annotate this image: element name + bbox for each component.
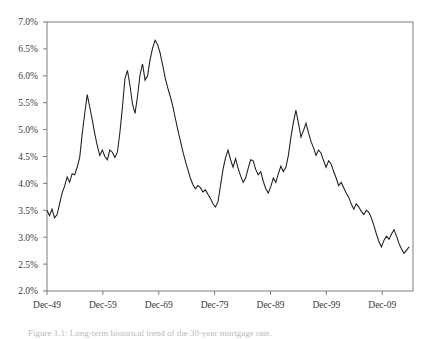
y-axis-tick-label: 4.5%	[18, 152, 38, 162]
y-axis-tick-label: 3.0%	[18, 233, 38, 243]
x-axis-tick-label: Dec-59	[89, 300, 117, 310]
y-axis-tick-label: 2.5%	[18, 260, 38, 270]
x-axis-tick-label: Dec-99	[312, 300, 340, 310]
x-axis-tick-label: Dec-09	[368, 300, 396, 310]
y-axis-tick-label: 7.0%	[18, 17, 38, 27]
figure-background	[0, 0, 429, 339]
figure-caption-text: Figure 1.1: Long-term historical trend o…	[28, 330, 272, 338]
y-axis-tick-label: 3.5%	[18, 206, 38, 216]
y-axis-tick-label: 2.0%	[18, 286, 38, 296]
x-axis-tick-label: Dec-69	[145, 300, 173, 310]
figure-caption-clipped: Figure 1.1: Long-term historical trend o…	[0, 330, 429, 339]
y-axis-tick-label: 6.0%	[18, 71, 38, 81]
y-axis-tick-label: 4.0%	[18, 179, 38, 189]
y-axis-tick-label: 6.5%	[18, 44, 38, 54]
x-axis-tick-label: Dec-79	[201, 300, 229, 310]
x-axis-tick-label: Dec-49	[33, 300, 61, 310]
x-axis-tick-label: Dec-89	[257, 300, 285, 310]
line-chart-figure: 2.0%2.5%3.0%3.5%4.0%4.5%5.0%5.5%6.0%6.5%…	[0, 0, 429, 339]
y-axis-tick-label: 5.0%	[18, 125, 38, 135]
y-axis-tick-label: 5.5%	[18, 98, 38, 108]
